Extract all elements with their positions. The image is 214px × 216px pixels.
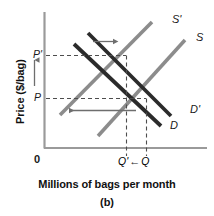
supply-demand-chart-panel-b: S' S D' D P' P 0 Q' ← Q Price ($/bag) Mi… — [0, 0, 214, 216]
demand-curves — [74, 33, 171, 126]
curve-label-supply-original: S — [196, 32, 203, 43]
x-tick-group: Q' ← Q — [118, 155, 149, 167]
x-tick-label-quantity-new: Q' — [118, 155, 128, 167]
y-axis-title: Price ($/bag) — [14, 59, 26, 124]
curve-label-demand-original: D — [170, 120, 178, 131]
x-axis-title: Millions of bags per month — [0, 178, 214, 190]
origin-label: 0 — [34, 154, 40, 165]
curve-label-supply-new: S' — [172, 14, 181, 25]
panel-caption: (b) — [0, 196, 214, 208]
y-tick-label-price-low: P — [34, 92, 41, 103]
curve-label-demand-new: D' — [190, 104, 200, 115]
x-tick-label-quantity-old: Q — [141, 155, 149, 167]
supply-curves — [60, 22, 185, 136]
equilibrium-guides — [46, 56, 147, 157]
y-tick-label-price-high: P' — [33, 49, 42, 60]
curve-supply-new — [60, 22, 152, 115]
chart-axes — [44, 12, 207, 149]
quantity-decrease-arrow-icon: ← — [129, 156, 140, 167]
